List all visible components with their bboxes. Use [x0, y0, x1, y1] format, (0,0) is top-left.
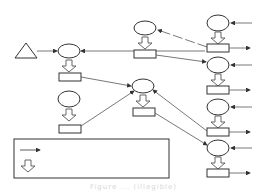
- node-d: [132, 79, 155, 116]
- node-r2: [207, 57, 252, 94]
- node-r1: [207, 15, 252, 52]
- legend: [14, 139, 169, 178]
- node-c: [58, 91, 81, 133]
- node-r3: [207, 99, 252, 136]
- node-a: [58, 44, 81, 81]
- node-r4: [207, 140, 252, 177]
- flow-diagram: [0, 0, 267, 194]
- source-triangle-icon: [15, 43, 37, 58]
- figure-caption: Figure ... (illegible): [0, 183, 267, 191]
- node-b: [134, 21, 156, 58]
